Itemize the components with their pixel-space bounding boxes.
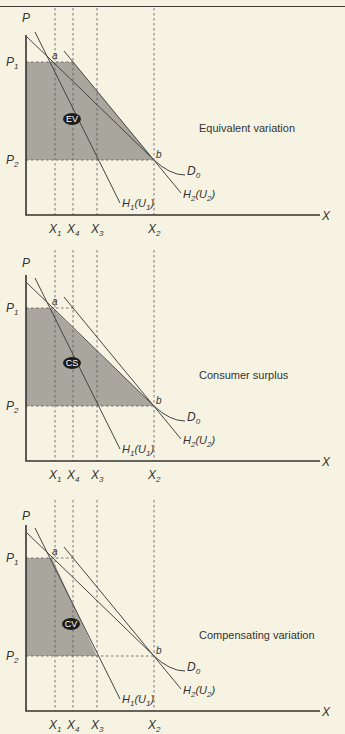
h2-label: H2(U2) bbox=[183, 434, 215, 449]
d0-label: D0 bbox=[187, 164, 201, 180]
point-a-label: a bbox=[52, 50, 58, 61]
curve-h2 bbox=[64, 547, 181, 689]
cv-badge-text: CV bbox=[65, 619, 78, 629]
x4-label: X4 bbox=[66, 468, 80, 484]
x2-label: X2 bbox=[147, 468, 161, 484]
x4-label: X4 bbox=[66, 222, 80, 238]
point-b-label: b bbox=[156, 395, 162, 406]
point-a-label: a bbox=[52, 546, 58, 557]
x3-label: X3 bbox=[90, 718, 104, 734]
x1-label: X1 bbox=[48, 222, 61, 238]
ev-shaded-area bbox=[26, 62, 154, 160]
x-axis-label: X bbox=[321, 455, 331, 469]
x2-label: X2 bbox=[147, 222, 161, 238]
ev-caption: Equivalent variation bbox=[199, 122, 295, 134]
h1-label: H1(U1) bbox=[122, 693, 154, 708]
panel-consumer-surplus: P X P1 P2 X1 X4 X3 X2 a b D0 H1(U1) H2(U… bbox=[0, 246, 345, 496]
cs-badge-text: CS bbox=[66, 358, 79, 368]
x2-label: X2 bbox=[147, 718, 161, 734]
p2-label: P2 bbox=[6, 153, 19, 169]
p1-label: P1 bbox=[6, 55, 18, 71]
point-b-label: b bbox=[156, 645, 162, 656]
p2-label: P2 bbox=[6, 649, 19, 665]
h2-label: H2(U2) bbox=[183, 684, 215, 699]
x1-label: X1 bbox=[48, 718, 61, 734]
point-a-label: a bbox=[52, 296, 58, 307]
cv-shaded-area bbox=[26, 558, 97, 656]
h2-label: H2(U2) bbox=[183, 188, 215, 203]
x-axis-label: X bbox=[321, 705, 331, 719]
panel-compensating-variation: P X P1 P2 X1 X4 X3 X2 a b D0 H1(U1) H2(U… bbox=[0, 496, 345, 734]
p1-label: P1 bbox=[6, 301, 18, 317]
h1-label: H1(U1) bbox=[122, 197, 154, 212]
point-b-label: b bbox=[156, 149, 162, 160]
y-axis-label: P bbox=[22, 256, 30, 270]
cv-caption: Compensating variation bbox=[199, 629, 315, 641]
cs-caption: Consumer surplus bbox=[199, 369, 289, 381]
d0-label: D0 bbox=[187, 660, 201, 676]
x1-label: X1 bbox=[48, 468, 61, 484]
p1-label: P1 bbox=[6, 551, 18, 567]
p2-label: P2 bbox=[6, 399, 19, 415]
d0-label: D0 bbox=[187, 410, 201, 426]
y-axis-label: P bbox=[22, 509, 30, 523]
x3-label: X3 bbox=[90, 468, 104, 484]
x4-label: X4 bbox=[66, 718, 80, 734]
x3-label: X3 bbox=[90, 222, 104, 238]
x-axis-label: X bbox=[321, 209, 331, 223]
ev-badge-text: EV bbox=[66, 114, 78, 124]
cs-shaded-area bbox=[26, 308, 154, 406]
panel-equivalent-variation: P X P1 P2 X1 X4 X3 X2 a b D0 H1(U1) H2(U… bbox=[0, 0, 345, 246]
h1-label: H1(U1) bbox=[122, 443, 154, 458]
y-axis-label: P bbox=[22, 11, 30, 25]
